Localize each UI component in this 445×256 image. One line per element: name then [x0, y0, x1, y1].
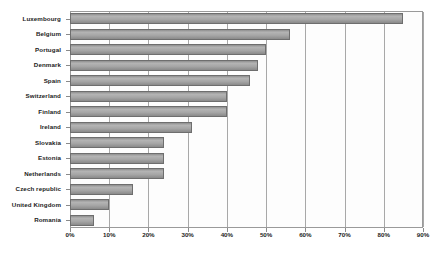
- category-label-slovakia: Slovakia: [0, 139, 61, 147]
- y-tick-mark: [66, 174, 70, 175]
- bar-ireland[interactable]: [70, 122, 192, 133]
- y-tick-mark: [66, 112, 70, 113]
- bar-united-kingdom[interactable]: [70, 199, 109, 210]
- bar-row: [70, 29, 423, 40]
- x-axis-label-50%: 50%: [248, 231, 284, 238]
- bar-row: [70, 75, 423, 86]
- bar-row: [70, 168, 423, 179]
- y-tick-mark: [66, 220, 70, 221]
- bar-chart: LuxembourgBelgiumPortugalDenmarkSpainSwi…: [0, 0, 445, 256]
- gridline-90%: [423, 12, 424, 227]
- category-label-denmark: Denmark: [0, 61, 61, 69]
- category-label-czech-republic: Czech republic: [0, 185, 61, 193]
- category-label-switzerland: Switzerland: [0, 92, 61, 100]
- y-tick-mark: [66, 158, 70, 159]
- bar-switzerland[interactable]: [70, 91, 227, 102]
- bar-portugal[interactable]: [70, 44, 266, 55]
- category-label-belgium: Belgium: [0, 30, 61, 38]
- y-tick-mark: [66, 50, 70, 51]
- x-axis-label-30%: 30%: [170, 231, 206, 238]
- category-label-spain: Spain: [0, 77, 61, 85]
- y-tick-mark: [66, 81, 70, 82]
- bar-netherlands[interactable]: [70, 168, 164, 179]
- category-label-united-kingdom: United Kingdom: [0, 201, 61, 209]
- bar-romania[interactable]: [70, 215, 94, 226]
- bar-spain[interactable]: [70, 75, 250, 86]
- x-axis-label-0%: 0%: [52, 231, 88, 238]
- bar-row: [70, 184, 423, 195]
- bar-denmark[interactable]: [70, 60, 258, 71]
- bar-luxembourg[interactable]: [70, 13, 403, 24]
- category-label-luxembourg: Luxembourg: [0, 15, 61, 23]
- category-label-romania: Romania: [0, 216, 61, 224]
- y-tick-mark: [66, 205, 70, 206]
- bar-slovakia[interactable]: [70, 137, 164, 148]
- y-tick-mark: [66, 96, 70, 97]
- category-label-portugal: Portugal: [0, 46, 61, 54]
- bar-row: [70, 153, 423, 164]
- bar-row: [70, 13, 423, 24]
- bar-row: [70, 60, 423, 71]
- x-axis-label-60%: 60%: [287, 231, 323, 238]
- x-axis-label-80%: 80%: [366, 231, 402, 238]
- y-axis-category-labels: LuxembourgBelgiumPortugalDenmarkSpainSwi…: [0, 11, 66, 228]
- category-label-finland: Finland: [0, 108, 61, 116]
- x-axis-label-90%: 90%: [405, 231, 441, 238]
- bar-finland[interactable]: [70, 106, 227, 117]
- x-axis-label-20%: 20%: [130, 231, 166, 238]
- bar-row: [70, 199, 423, 210]
- bar-estonia[interactable]: [70, 153, 164, 164]
- x-axis-label-10%: 10%: [91, 231, 127, 238]
- bar-row: [70, 215, 423, 226]
- bar-row: [70, 44, 423, 55]
- bar-row: [70, 137, 423, 148]
- bar-row: [70, 91, 423, 102]
- bar-czech-republic[interactable]: [70, 184, 133, 195]
- x-axis-labels: 0%10%20%30%40%50%60%70%80%90%: [0, 231, 445, 245]
- category-label-estonia: Estonia: [0, 154, 61, 162]
- x-axis-label-40%: 40%: [209, 231, 245, 238]
- bar-row: [70, 106, 423, 117]
- y-tick-mark: [66, 34, 70, 35]
- x-axis-label-70%: 70%: [327, 231, 363, 238]
- y-tick-mark: [66, 189, 70, 190]
- y-tick-mark: [66, 65, 70, 66]
- bar-belgium[interactable]: [70, 29, 290, 40]
- y-tick-mark: [66, 19, 70, 20]
- y-tick-mark: [66, 143, 70, 144]
- category-label-ireland: Ireland: [0, 123, 61, 131]
- bars-layer: [70, 11, 423, 228]
- category-label-netherlands: Netherlands: [0, 170, 61, 178]
- bar-row: [70, 122, 423, 133]
- y-tick-mark: [66, 127, 70, 128]
